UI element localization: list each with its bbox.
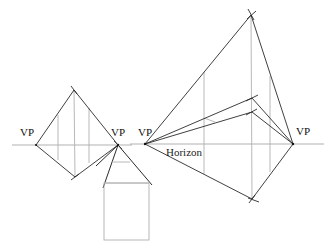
house-roof-right — [118, 145, 152, 185]
right-figure-inner-upper-right — [252, 98, 293, 144]
left-diamond-edge-top-left — [36, 90, 74, 145]
right-figure-inner-lower-left — [145, 112, 252, 144]
right-figure-short-guide — [204, 118, 215, 122]
left-diamond — [35, 86, 118, 180]
right-figure-inner-lower-right — [252, 112, 293, 144]
left-diamond-edge-bottom-left — [36, 145, 75, 177]
left-diamond-vertical-center — [74, 90, 75, 177]
right-figure-edge-top-right — [251, 15, 293, 144]
vp-label-left-diamond: VP — [20, 127, 34, 138]
vp-label-shared: VP — [111, 127, 125, 138]
horizon-lines — [12, 144, 324, 145]
right-figure-inner-upper-tick — [246, 95, 258, 101]
perspective-diagram — [0, 0, 331, 248]
house — [96, 141, 152, 240]
right-figure-edge-bottom-right — [252, 144, 293, 199]
vp-label-right-figure-left: VP — [138, 127, 152, 138]
vp-label-right-figure-right: VP — [296, 126, 310, 137]
right-figure — [144, 9, 294, 203]
left-diamond-edge-bottom-right — [75, 145, 118, 177]
horizon-label: Horizon — [166, 147, 202, 158]
vp-marker-left-diamond — [35, 144, 37, 146]
house-box — [104, 183, 149, 240]
right-figure-vertical-center — [251, 15, 252, 199]
right-figure-inner-upper-left — [145, 98, 252, 144]
house-roof-left — [103, 145, 118, 188]
right-figure-edge-top-left — [145, 15, 251, 144]
vp-marker-right-figure-right — [292, 143, 294, 145]
vp-marker-right-figure-left — [144, 143, 146, 145]
